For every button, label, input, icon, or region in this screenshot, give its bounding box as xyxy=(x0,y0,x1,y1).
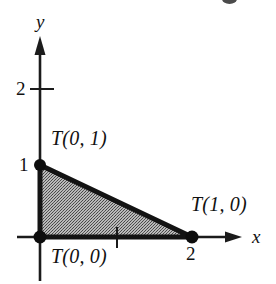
y-axis-arrowhead xyxy=(35,36,46,55)
y-tick-label-2: 2 xyxy=(16,79,26,98)
vertex-marker-0-0 xyxy=(34,231,47,244)
y-tick-label-1: 1 xyxy=(19,155,29,174)
coordinate-plot xyxy=(0,0,276,284)
vertex-marker-2-0 xyxy=(186,231,199,244)
vertex-label-right: T(1, 0) xyxy=(191,194,247,214)
figure-canvas: y x 2 1 2 T(0, 1) T(0, 0) T(1, 0) xyxy=(0,0,276,284)
vertex-marker-0-1 xyxy=(34,159,46,171)
x-tick-label-2: 2 xyxy=(186,244,196,263)
y-axis-label: y xyxy=(36,12,44,31)
x-axis-label: x xyxy=(252,227,260,246)
vertex-label-top: T(0, 1) xyxy=(51,128,107,148)
vertex-label-origin: T(0, 0) xyxy=(51,246,107,266)
x-axis-arrowhead xyxy=(225,232,242,243)
